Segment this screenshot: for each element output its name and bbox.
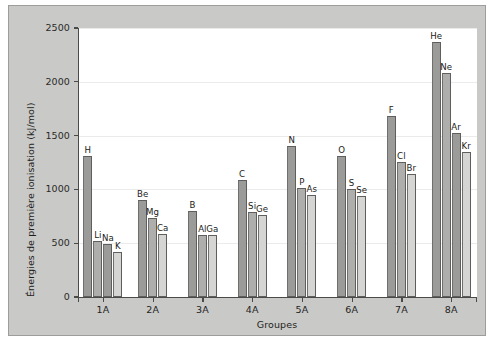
x-axis-tick-label-2a: 2A	[146, 304, 159, 315]
x-axis-tick-mark	[302, 298, 303, 302]
bar-label-cl: Cl	[397, 151, 406, 161]
bar-label-kr: Kr	[461, 141, 470, 151]
x-axis-tick-mark	[401, 298, 402, 302]
bar-label-f: F	[389, 105, 394, 115]
bar-ne	[442, 73, 451, 297]
bar-label-s: S	[349, 178, 355, 188]
x-axis-tick-label-5a: 5A	[296, 304, 309, 315]
bar-p	[297, 188, 306, 297]
bar-label-ar: Ar	[451, 122, 461, 132]
y-axis-tick-label: 500	[30, 238, 70, 248]
x-axis-tick-mark	[352, 298, 353, 302]
bar-kr	[462, 152, 471, 297]
bar-label-ga: Ga	[206, 224, 218, 234]
bar-label-se: Se	[356, 185, 367, 195]
bar-label-he: He	[430, 31, 442, 41]
bar-label-n: N	[289, 135, 296, 145]
bar-ga	[208, 235, 217, 297]
bar-s	[347, 189, 356, 297]
bar-label-be: Be	[137, 189, 148, 199]
y-axis-tick-label: 0	[30, 292, 70, 302]
bar-as	[307, 195, 316, 297]
bar-label-c: C	[239, 169, 245, 179]
x-axis-tick-label-6a: 6A	[345, 304, 358, 315]
x-axis-tick-label-8a: 8A	[445, 304, 458, 315]
bar-b	[188, 211, 197, 297]
bar-br	[407, 174, 416, 297]
x-axis-title: Groupes	[78, 319, 476, 330]
bar-label-p: P	[299, 177, 304, 187]
bar-label-b: B	[189, 200, 195, 210]
bar-label-br: Br	[407, 163, 417, 173]
bar-n	[287, 146, 296, 297]
gridline	[79, 82, 477, 83]
x-axis-tick-mark	[202, 298, 203, 302]
bar-label-o: O	[338, 145, 345, 155]
y-axis-tick-mark	[74, 27, 78, 28]
y-axis-tick-label: 1000	[30, 184, 70, 194]
bar-f	[387, 116, 396, 297]
plot-area: HLiNaKBeMgCaBAlGaCSiGeNPAsOSSeFClBrHeNeA…	[78, 28, 477, 298]
bar-h	[83, 156, 92, 297]
bar-label-li: Li	[94, 230, 101, 240]
y-axis-tick-label: 2500	[30, 23, 70, 33]
gridline	[79, 28, 477, 29]
bar-li	[93, 241, 102, 297]
bar-label-si: Si	[248, 201, 256, 211]
bar-label-na: Na	[102, 233, 114, 243]
y-axis-tick-mark	[74, 135, 78, 136]
bar-se	[357, 196, 366, 297]
x-axis-tick-label-7a: 7A	[395, 304, 408, 315]
gridline	[79, 136, 477, 137]
ionization-energy-chart-figure: Énergies de première ionisation (kJ/mol)…	[0, 0, 496, 343]
bar-label-ge: Ge	[256, 204, 268, 214]
bar-label-ne: Ne	[440, 62, 452, 72]
x-axis-tick-mark	[103, 298, 104, 302]
bar-label-h: H	[85, 145, 92, 155]
bar-label-as: As	[307, 184, 318, 194]
bar-na	[103, 244, 112, 297]
bar-mg	[148, 218, 157, 297]
y-axis-tick-mark	[74, 243, 78, 244]
x-axis-tick-mark	[252, 298, 253, 302]
y-axis-tick-mark	[74, 81, 78, 82]
y-axis-tick-label: 2000	[30, 77, 70, 87]
bar-al	[198, 235, 207, 297]
x-axis-boundary-tick	[78, 298, 79, 302]
bar-ar	[452, 133, 461, 297]
x-axis-boundary-tick	[476, 298, 477, 302]
bar-k	[113, 252, 122, 297]
bar-si	[248, 212, 257, 297]
x-axis-tick-mark	[153, 298, 154, 302]
x-axis-tick-label-1a: 1A	[97, 304, 110, 315]
bar-label-ca: Ca	[157, 223, 168, 233]
x-axis-tick-mark	[451, 298, 452, 302]
bar-c	[238, 180, 247, 297]
bar-he	[432, 42, 441, 297]
bar-o	[337, 156, 346, 297]
y-axis-tick-mark	[74, 189, 78, 190]
bar-ca	[158, 234, 167, 297]
x-axis-tick-label-4a: 4A	[246, 304, 259, 315]
bar-label-mg: Mg	[146, 207, 159, 217]
bar-label-k: K	[115, 241, 121, 251]
y-axis-tick-label: 1500	[30, 131, 70, 141]
bar-cl	[397, 162, 406, 297]
x-axis-tick-label-3a: 3A	[196, 304, 209, 315]
bar-ge	[258, 215, 267, 297]
chart-panel: Énergies de première ionisation (kJ/mol)…	[8, 5, 486, 336]
